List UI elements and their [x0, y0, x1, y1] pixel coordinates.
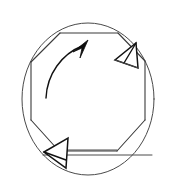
octagon-edge-bottom-right	[117, 120, 145, 151]
rotation-arrow-shaft	[46, 46, 82, 98]
figure-container: Rotation of an octagon inscribed in a ci…	[0, 0, 175, 186]
octagon-edge-top-left	[31, 33, 60, 62]
octagon-rotation-diagram	[0, 0, 175, 186]
